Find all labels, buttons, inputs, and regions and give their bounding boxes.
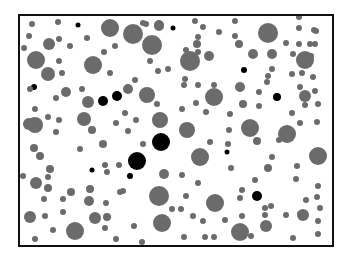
gray-particle — [195, 180, 201, 186]
gray-particle — [20, 173, 26, 179]
gray-particle — [200, 218, 206, 224]
gray-particle — [154, 101, 160, 107]
gray-particle — [193, 100, 199, 106]
gray-particle — [183, 193, 189, 199]
gray-particle — [56, 36, 62, 42]
gray-particle — [265, 73, 271, 79]
gray-particle — [232, 18, 238, 24]
gray-particle — [139, 239, 145, 245]
black-particle — [127, 173, 133, 179]
gray-particle — [30, 177, 42, 189]
gray-particle — [53, 95, 59, 101]
gray-particle — [315, 231, 321, 237]
gray-particle — [133, 117, 139, 123]
gray-particle — [302, 102, 308, 108]
gray-particle — [256, 89, 262, 95]
gray-particle — [317, 205, 323, 211]
gray-particle — [269, 154, 275, 160]
gray-particle — [27, 51, 45, 69]
gray-particle — [239, 100, 247, 108]
gray-particle — [43, 38, 55, 50]
gray-particle — [283, 40, 289, 46]
gray-particle — [303, 197, 309, 203]
gray-particle — [309, 147, 327, 165]
gray-particle — [253, 137, 261, 145]
black-particle — [225, 150, 230, 155]
black-particle — [152, 133, 170, 151]
gray-particle — [264, 164, 272, 172]
gray-particle — [113, 120, 119, 126]
gray-particle — [61, 87, 71, 97]
gray-particle — [178, 206, 184, 212]
gray-particle — [297, 120, 303, 126]
gray-particle — [89, 212, 101, 224]
gray-particle — [193, 40, 201, 48]
gray-particle — [256, 103, 262, 109]
gray-particle — [296, 41, 302, 47]
gray-particle — [200, 24, 206, 30]
gray-particle — [169, 206, 175, 212]
gray-particle — [232, 33, 238, 39]
gray-particle — [55, 19, 61, 25]
gray-particle — [21, 45, 27, 51]
gray-particle — [312, 88, 318, 94]
gray-particle — [289, 71, 295, 77]
gray-particle — [60, 196, 66, 202]
particle-distribution-diagram — [0, 0, 350, 261]
gray-particle — [116, 162, 122, 168]
gray-particle — [45, 114, 51, 120]
gray-particle — [239, 187, 245, 193]
gray-particle — [262, 212, 268, 218]
gray-particle — [30, 144, 38, 152]
gray-particle — [290, 235, 296, 241]
gray-particle — [308, 53, 314, 59]
gray-particle — [297, 209, 309, 221]
black-particle — [273, 93, 281, 101]
gray-particle — [29, 21, 35, 27]
gray-particle — [147, 58, 153, 64]
gray-particle — [32, 106, 38, 112]
gray-particle — [315, 101, 321, 107]
gray-particle — [180, 51, 200, 71]
gray-particle — [123, 24, 143, 44]
gray-particle — [252, 177, 258, 183]
gray-particle — [56, 117, 62, 123]
gray-particle — [67, 43, 73, 49]
gray-particle — [101, 19, 119, 37]
gray-particle — [139, 87, 155, 103]
gray-particle — [312, 41, 318, 47]
gray-particle — [290, 51, 296, 57]
gray-particle — [205, 88, 223, 106]
gray-particle — [99, 140, 107, 148]
gray-particle — [103, 213, 111, 221]
gray-particle — [122, 110, 128, 116]
gray-particle — [140, 141, 146, 147]
gray-particle — [142, 35, 162, 55]
gray-particle — [293, 176, 299, 182]
gray-particle — [66, 222, 84, 240]
gray-particle — [155, 68, 161, 74]
gray-particle — [41, 196, 47, 202]
gray-particle — [216, 29, 222, 35]
gray-particle — [296, 25, 302, 31]
gray-particle — [269, 66, 275, 72]
gray-particle — [84, 196, 94, 206]
gray-particle — [225, 141, 231, 147]
gray-particle — [190, 213, 196, 219]
gray-particle — [77, 112, 91, 126]
gray-particle — [207, 139, 213, 145]
black-particle — [112, 91, 122, 101]
gray-particle — [231, 223, 249, 241]
gray-particle — [79, 86, 85, 92]
gray-particle — [267, 49, 277, 59]
gray-particle — [103, 200, 109, 206]
gray-particle — [181, 82, 187, 88]
gray-particle — [88, 126, 96, 134]
gray-particle — [299, 90, 311, 102]
gray-particle — [294, 163, 300, 169]
gray-particle — [44, 184, 52, 192]
gray-particle — [107, 70, 113, 76]
gray-particle — [179, 122, 195, 138]
black-particle — [252, 191, 262, 201]
gray-particle — [104, 169, 110, 175]
